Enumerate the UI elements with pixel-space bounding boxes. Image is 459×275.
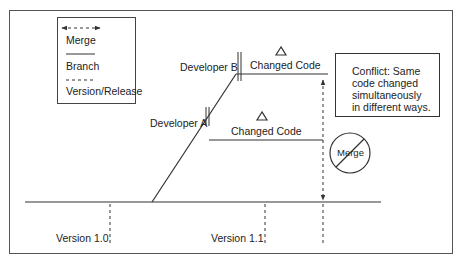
developer-b-parallel-mark	[238, 52, 241, 81]
conflict-line: code changed	[352, 77, 431, 89]
legend-merge-label: Merge	[66, 34, 96, 46]
merge-blocked-label: Merge	[337, 147, 364, 159]
conflict-line: in different ways.	[352, 101, 431, 113]
delta-icon-b	[276, 47, 286, 55]
developer-b-label: Developer B	[180, 61, 238, 73]
developer-a-change-label: Changed Code	[231, 125, 302, 137]
conflict-note: Conflict: Same code changed simultaneous…	[352, 65, 431, 113]
developer-a-label: Developer A	[150, 117, 207, 129]
delta-icon-a	[257, 112, 267, 120]
version-1-1-label: Version 1.1	[211, 232, 264, 244]
legend-version-label: Version/Release	[66, 85, 142, 97]
legend-branch-label: Branch	[66, 60, 99, 72]
branch-diagonal	[152, 74, 236, 202]
version-1-0-label: Version 1.0	[56, 232, 109, 244]
developer-b-change-label: Changed Code	[250, 59, 321, 71]
conflict-line: Conflict: Same	[352, 65, 431, 77]
conflict-line: simultaneously	[352, 89, 431, 101]
